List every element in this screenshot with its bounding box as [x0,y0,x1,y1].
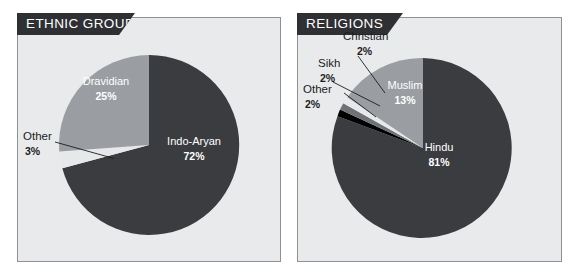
pie-callout-other-religion-name: Other [303,83,332,95]
panel-ethnic-groups: ETHNIC GROUPS Dravidian 25% Indo-Aryan [17,17,281,262]
pie-callout-other-religion-pct: 2% [305,98,321,110]
pie-callout-christian: Christian 2% [343,30,388,57]
pie-label-hindu-name: Hindu [425,141,454,153]
pie-callout-sikh-name: Sikh [318,57,340,69]
pie-label-muslim-pct: 13% [394,94,416,106]
pie-label-dravidian-pct: 25% [95,90,117,102]
pie-callout-other-ethnic: Other 3% [23,130,52,157]
pie-label-hindu-pct: 81% [428,156,450,168]
two-pie-chart-figure: ETHNIC GROUPS Dravidian 25% Indo-Aryan [0,0,579,278]
pie-label-muslim-name: Muslim [388,79,423,91]
pie-label-dravidian-name: Dravidian [83,75,129,87]
panel-religions: RELIGIONS Muslim 13% [297,17,562,262]
pie-svg-religions: Muslim 13% Hindu 81% Christian 2% Sikh [298,18,561,261]
pie-label-indo-aryan-pct: 72% [183,150,205,162]
pie-chart-ethnic-groups: Dravidian 25% Indo-Aryan 72% Other 3% [18,18,280,261]
pie-callout-other-ethnic-name: Other [23,130,52,142]
pie-callout-other-ethnic-pct: 3% [25,145,41,157]
pie-callout-christian-name: Christian [343,30,388,42]
pie-chart-religions: Muslim 13% Hindu 81% Christian 2% Sikh [298,18,561,261]
pie-svg-ethnic: Dravidian 25% Indo-Aryan 72% Other 3% [18,18,280,261]
pie-callout-other-religion: Other 2% [303,83,332,110]
pie-label-indo-aryan-name: Indo-Aryan [167,135,221,147]
pie-slice-dravidian[interactable] [59,55,149,152]
pie-callout-christian-pct: 2% [357,45,373,57]
pie-callout-sikh: Sikh 2% [318,57,340,84]
